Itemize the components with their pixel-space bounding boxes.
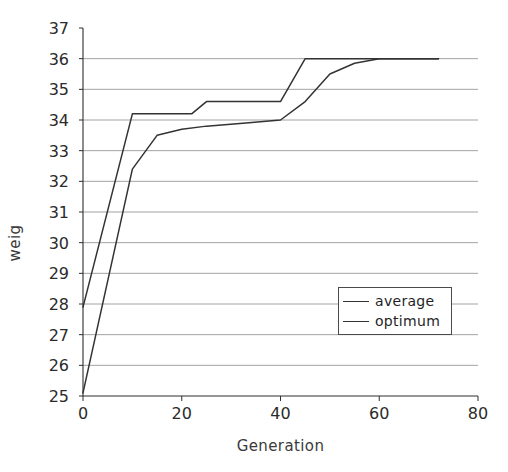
series-line-average [83, 59, 439, 393]
legend-label-optimum: optimum [375, 313, 440, 329]
series-line-optimum [83, 59, 439, 307]
data-series-group [83, 59, 439, 393]
legend-line-swatch-average [343, 301, 369, 302]
plot-area [0, 0, 508, 472]
legend-label-average: average [375, 293, 434, 309]
chart-container: weig 37363534333231302928272625 02040608… [0, 0, 508, 472]
legend-item-average: average [343, 291, 446, 311]
tick-marks [79, 28, 478, 401]
legend-item-optimum: optimum [343, 311, 446, 331]
chart-legend: average optimum [338, 287, 452, 335]
legend-line-swatch-optimum [343, 321, 369, 322]
